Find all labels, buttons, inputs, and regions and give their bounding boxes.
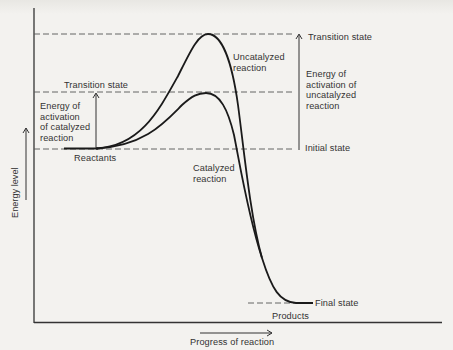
initial-state-label: Initial state bbox=[305, 143, 350, 154]
y-axis-label: Energy level bbox=[10, 167, 20, 218]
ea-uncatalyzed-label: Energy of activation of uncatalyzed reac… bbox=[306, 69, 356, 111]
final-state-label: Final state bbox=[315, 298, 359, 309]
uncatalyzed-transition-label: Transition state bbox=[308, 32, 372, 43]
products-label: Products bbox=[272, 311, 309, 322]
ea-catalyzed-label: Energy of activation of catalyzed reacti… bbox=[40, 101, 90, 143]
reactants-label: Reactants bbox=[74, 153, 116, 164]
catalyzed-curve-label: Catalyzed reaction bbox=[193, 163, 235, 184]
catalyzed-transition-label: Transition state bbox=[64, 80, 128, 91]
uncatalyzed-curve-label: Uncatalyzed reaction bbox=[233, 52, 285, 73]
catalyzed-curve bbox=[96, 93, 262, 258]
x-axis-label: Progress of reaction bbox=[190, 337, 274, 348]
